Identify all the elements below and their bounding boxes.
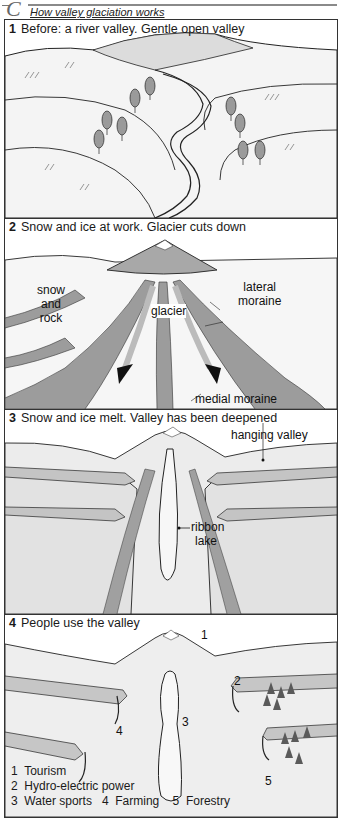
panel-heading-text: Before: a river valley. Gentle open vall… bbox=[21, 22, 245, 36]
panel-heading-text: Snow and ice melt. Valley has been deepe… bbox=[21, 411, 277, 425]
panel-number: 1 bbox=[9, 22, 16, 36]
label-glacier: glacier bbox=[151, 304, 186, 318]
section-marker: C bbox=[6, 0, 21, 20]
legend: 1 Tourism 2 Hydro-electric power 3 Water… bbox=[11, 764, 230, 809]
legend-item-water-farming-forestry: 3 Water sports 4 Farming 5 Forestry bbox=[11, 794, 230, 809]
panel-heading-text: People use the valley bbox=[21, 616, 140, 630]
panel-2-heading: 2Snow and ice at work. Glacier cuts down bbox=[9, 220, 246, 234]
panel-heading-text: Snow and ice at work. Glacier cuts down bbox=[21, 220, 246, 234]
panel-4: 4People use the valley 1 2 3 4 5 1 Touri… bbox=[5, 614, 337, 817]
panel-4-heading: 4People use the valley bbox=[9, 616, 140, 630]
label-medial-moraine: medial moraine bbox=[195, 392, 277, 406]
label-ribbon-lake: ribbon lake bbox=[191, 520, 224, 548]
marker-5: 5 bbox=[265, 774, 272, 788]
label-lateral-moraine: lateral moraine bbox=[238, 280, 281, 308]
legend-item-hydro: 2 Hydro-electric power bbox=[11, 779, 230, 794]
panel-3: 3Snow and ice melt. Valley has been deep… bbox=[5, 409, 337, 615]
label-snow-and-rock: snow and rock bbox=[37, 283, 65, 325]
panel-2: 2Snow and ice at work. Glacier cuts down… bbox=[5, 218, 337, 410]
panel-1: 1Before: a river valley. Gentle open val… bbox=[5, 20, 337, 219]
label-line: lateral bbox=[238, 280, 281, 294]
figure-frame: 1Before: a river valley. Gentle open val… bbox=[4, 19, 338, 818]
panel-number: 3 bbox=[9, 411, 16, 425]
panel-1-heading: 1Before: a river valley. Gentle open val… bbox=[9, 22, 244, 36]
label-line: lake bbox=[191, 534, 224, 548]
river-valley-illustration bbox=[5, 20, 337, 218]
label-line: rock bbox=[37, 311, 65, 325]
label-line: and bbox=[37, 297, 65, 311]
marker-2: 2 bbox=[234, 674, 241, 688]
marker-4: 4 bbox=[116, 724, 123, 738]
label-line: snow bbox=[37, 283, 65, 297]
label-line: moraine bbox=[238, 294, 281, 308]
panel-number: 4 bbox=[9, 616, 16, 630]
figure-title: How valley glaciation works bbox=[30, 6, 165, 18]
marker-3: 3 bbox=[182, 715, 189, 729]
panel-3-heading: 3Snow and ice melt. Valley has been deep… bbox=[9, 411, 277, 425]
label-hanging-valley: hanging valley bbox=[231, 428, 308, 442]
panel-number: 2 bbox=[9, 220, 16, 234]
label-line: ribbon bbox=[191, 520, 224, 534]
legend-item-tourism: 1 Tourism bbox=[11, 764, 230, 779]
marker-1: 1 bbox=[201, 628, 208, 642]
